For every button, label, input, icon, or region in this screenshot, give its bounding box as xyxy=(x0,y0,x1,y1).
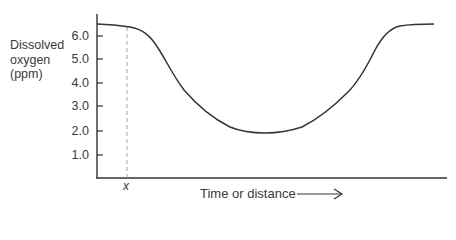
dissolved-oxygen-curve xyxy=(97,24,434,133)
y-tick-label: 3.0 xyxy=(55,99,89,113)
y-tick-label: 6.0 xyxy=(55,29,89,43)
y-ticks xyxy=(97,36,103,155)
y-tick-label: 2.0 xyxy=(55,124,89,138)
y-tick-label: 5.0 xyxy=(55,52,89,66)
y-tick-label: 4.0 xyxy=(55,76,89,90)
x-axis-label: Time or distance xyxy=(200,186,296,201)
x-axis-arrow-icon xyxy=(297,189,342,199)
y-tick-label: 1.0 xyxy=(55,148,89,162)
x-marker-label: x xyxy=(123,179,129,193)
